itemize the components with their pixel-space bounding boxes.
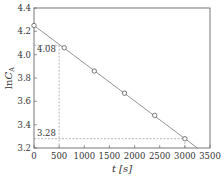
chart: 3.2 3.4 3.6 3.8 4.0 4.2 4.4 0 500 1000 1… bbox=[0, 0, 224, 179]
data-point bbox=[62, 46, 66, 50]
data-point bbox=[153, 113, 157, 117]
fit-line bbox=[34, 26, 197, 149]
data-point bbox=[122, 91, 126, 95]
x-tick-label: 3000 bbox=[174, 151, 196, 161]
y-axis-label: lnCA bbox=[3, 66, 16, 89]
data-point bbox=[92, 69, 96, 73]
y-tick-label: 4.0 bbox=[17, 50, 31, 60]
annotation-4-08: 4.08 bbox=[37, 44, 56, 54]
x-tick-label: 0 bbox=[31, 151, 36, 161]
x-tick-labels: 0 500 1000 1500 2000 2500 3000 3500 bbox=[31, 151, 221, 161]
data-point bbox=[32, 23, 36, 27]
x-ticks bbox=[34, 145, 210, 148]
x-tick-label: 3500 bbox=[199, 151, 221, 161]
y-tick-labels: 3.2 3.4 3.6 3.8 4.0 4.2 4.4 bbox=[17, 3, 31, 153]
svg-text:lnCA: lnCA bbox=[3, 66, 16, 89]
annotation-3-28: 3.28 bbox=[37, 128, 56, 138]
x-tick-label: 2500 bbox=[149, 151, 171, 161]
x-tick-label: 1000 bbox=[73, 151, 95, 161]
y-tick-label: 4.2 bbox=[17, 26, 31, 36]
plot-frame bbox=[34, 8, 210, 148]
x-tick-label: 2000 bbox=[124, 151, 146, 161]
y-tick-label: 3.4 bbox=[17, 120, 31, 130]
x-tick-label: 500 bbox=[51, 151, 67, 161]
y-tick-label: 3.6 bbox=[17, 96, 31, 106]
y-tick-label: 4.4 bbox=[17, 3, 31, 13]
x-axis-label: t [s] bbox=[112, 163, 132, 174]
guide-lines bbox=[34, 45, 185, 148]
y-tick-label: 3.2 bbox=[17, 143, 31, 153]
y-tick-label: 3.8 bbox=[17, 73, 31, 83]
data-point bbox=[183, 137, 187, 141]
x-tick-label: 1500 bbox=[99, 151, 121, 161]
y-label-subscript: A bbox=[8, 66, 16, 73]
